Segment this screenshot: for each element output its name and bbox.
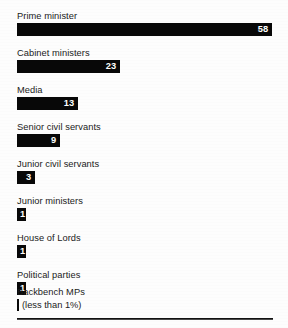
bar-value-label: 13 <box>64 98 74 109</box>
row-label: Junior civil servants <box>17 159 99 169</box>
row-label: Junior ministers <box>17 196 83 206</box>
bar-wrap: 3 <box>17 171 35 184</box>
bar-wrap: 13 <box>17 97 78 110</box>
row-label: Media <box>17 85 43 95</box>
baseline-rule <box>17 318 273 320</box>
row-label: Cabinet ministers <box>17 48 90 58</box>
bar-value-label: 1 <box>20 209 25 220</box>
bar-wrap: 58 <box>17 23 272 36</box>
bar-wrap: 1 <box>17 208 26 221</box>
bar-value-label: 23 <box>106 61 116 72</box>
bar-wrap: 1 <box>17 245 26 258</box>
bar <box>17 23 272 36</box>
bar-value-label: 3 <box>26 172 31 183</box>
bar-value-label: 1 <box>20 246 25 257</box>
row-label: Backbench MPs <box>17 287 85 297</box>
row-label: House of Lords <box>17 233 81 243</box>
bar-chart: Prime minister58Cabinet ministers23Media… <box>0 0 288 328</box>
bar-wrap: 23 <box>17 60 120 73</box>
bar <box>17 60 120 73</box>
bar-wrap: 9 <box>17 134 60 147</box>
row-label: Political parties <box>17 270 80 280</box>
bar-value-label: 58 <box>258 24 268 35</box>
row-label: Senior civil servants <box>17 122 101 132</box>
row-label: Prime minister <box>17 11 77 21</box>
bar-sliver <box>17 299 19 311</box>
bar-value-label: 9 <box>51 135 56 146</box>
row-note: (less than 1%) <box>22 299 81 311</box>
